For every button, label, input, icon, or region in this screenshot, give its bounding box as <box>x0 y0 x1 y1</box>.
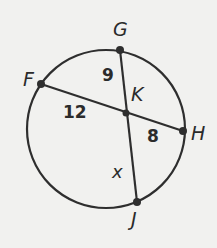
segment-gk-length: 9 <box>102 67 114 84</box>
label-j: J <box>131 210 137 229</box>
point-h-dot <box>179 127 187 135</box>
segment-kh-length: 8 <box>147 128 159 145</box>
segment-fk-length: 12 <box>63 104 87 121</box>
point-k-dot <box>123 110 130 117</box>
label-h: H <box>191 124 205 143</box>
point-j-dot <box>133 198 141 206</box>
point-f-dot <box>37 80 45 88</box>
chord-diagram: G F K H J 9 12 8 x <box>0 0 217 248</box>
label-k: K <box>131 85 143 104</box>
label-f: F <box>23 70 34 89</box>
diagram-canvas <box>0 0 217 248</box>
label-g: G <box>113 20 128 39</box>
point-g-dot <box>116 46 124 54</box>
segment-kj-length: x <box>112 163 123 181</box>
